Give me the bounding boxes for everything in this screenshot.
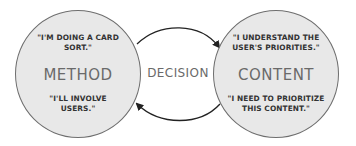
quote-line: "I NEED TO PRIORITIZE [214,94,338,104]
quote-line: "I'LL INVOLVE [16,94,140,104]
quote-line: SORT." [16,43,140,53]
quote-line: THIS CONTENT." [214,104,338,114]
method-bottom-quote: "I'LL INVOLVE USERS." [16,94,140,114]
content-top-quote: "I UNDERSTAND THE USER'S PRIORITIES." [214,33,338,53]
quote-line: USER'S PRIORITIES." [214,43,338,53]
arrow-method-to-content [137,28,219,47]
arrow-content-to-method [137,104,220,121]
method-top-quote: "I'M DOING A CARD SORT." [16,33,140,53]
quote-line: USERS." [16,104,140,114]
decision-label: DECISION [146,66,210,80]
method-circle: "I'M DOING A CARD SORT." METHOD "I'LL IN… [15,10,141,138]
content-title: CONTENT [214,66,338,84]
quote-line: "I UNDERSTAND THE [214,33,338,43]
content-bottom-quote: "I NEED TO PRIORITIZE THIS CONTENT." [214,94,338,114]
quote-line: "I'M DOING A CARD [16,33,140,43]
content-circle: "I UNDERSTAND THE USER'S PRIORITIES." CO… [213,10,339,138]
method-title: METHOD [16,66,140,84]
